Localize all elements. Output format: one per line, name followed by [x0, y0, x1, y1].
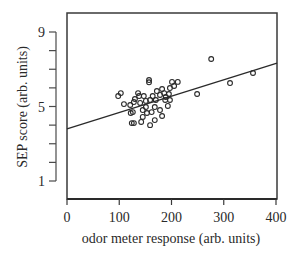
- data-point: [122, 102, 127, 107]
- y-axis-ticks: [49, 32, 56, 181]
- data-point: [138, 101, 143, 106]
- data-point: [150, 94, 155, 99]
- data-point: [152, 118, 157, 123]
- data-point: [140, 115, 145, 120]
- data-point: [228, 81, 233, 86]
- data-point: [152, 105, 157, 110]
- data-point: [158, 108, 163, 113]
- x-tick-label: 200: [161, 210, 182, 225]
- x-axis-label: odor meter response (arb. units): [82, 231, 261, 247]
- x-axis-tick-labels: 0100200300400: [64, 210, 287, 225]
- data-point: [139, 120, 144, 125]
- data-point: [168, 98, 173, 103]
- y-axis-label: SEP score (arb. units): [15, 46, 31, 168]
- y-tick-label: 5: [38, 100, 45, 115]
- data-point: [136, 91, 141, 96]
- data-point: [133, 97, 138, 102]
- data-point: [175, 80, 180, 85]
- data-point: [141, 94, 146, 99]
- data-point: [148, 123, 153, 128]
- data-point: [195, 92, 200, 97]
- plot-frame: [67, 13, 277, 199]
- x-tick-label: 400: [266, 210, 287, 225]
- data-point: [160, 87, 165, 92]
- regression-line: [67, 63, 277, 129]
- data-point: [209, 57, 214, 62]
- scatter-chart: 159 0100200300400 odor meter response (a…: [0, 0, 302, 256]
- data-point: [143, 105, 148, 110]
- data-point: [149, 110, 154, 115]
- data-point: [128, 103, 133, 108]
- x-tick-label: 100: [109, 210, 130, 225]
- data-point: [145, 111, 150, 116]
- y-tick-label: 9: [38, 25, 45, 40]
- data-point: [170, 80, 175, 85]
- data-point: [160, 114, 165, 119]
- data-point: [165, 104, 170, 109]
- y-axis-tick-labels: 159: [38, 25, 45, 189]
- x-tick-label: 300: [213, 210, 234, 225]
- data-point: [166, 92, 171, 97]
- y-tick-label: 1: [38, 174, 45, 189]
- x-tick-label: 0: [64, 210, 71, 225]
- data-point: [154, 89, 159, 94]
